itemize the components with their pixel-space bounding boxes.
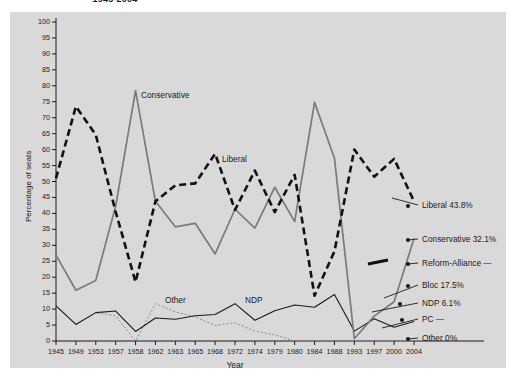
chart-annotation-ndp: NDP — [245, 295, 263, 305]
legend-marker-dot — [406, 238, 410, 242]
y-axis-tick-label: 80 — [28, 81, 50, 90]
series-line-other — [56, 304, 414, 341]
series-line-conservative — [56, 91, 414, 339]
legend-label-0: Liberal 43.8% — [422, 200, 473, 210]
legend-marker-dot — [406, 204, 410, 208]
y-axis-tick-label: 15 — [28, 288, 50, 297]
legend-leader-line — [384, 285, 418, 298]
legend-marker-dot — [400, 318, 404, 322]
x-axis-title: Year — [205, 360, 265, 370]
legend-marker-dot — [398, 302, 402, 306]
legend-marker-dot — [406, 284, 410, 288]
y-axis-tick-label: 35 — [28, 224, 50, 233]
y-axis-title: Percentage of seats — [24, 150, 33, 221]
y-axis-tick-label: 95 — [28, 33, 50, 42]
y-axis-tick-label: 90 — [28, 49, 50, 58]
y-axis-tick-label: 70 — [28, 113, 50, 122]
y-axis-tick-label: 0 — [28, 336, 50, 345]
x-axis-tick-label: 2004 — [401, 347, 427, 356]
legend-leader-line — [392, 198, 418, 205]
y-axis-tick-label: 100 — [28, 17, 50, 26]
y-axis-tick-label: 5 — [28, 320, 50, 329]
y-axis-tick-label: 85 — [28, 65, 50, 74]
legend-label-6: Other 0% — [422, 333, 457, 343]
legend-label-3: Bloc 17.5% — [422, 280, 464, 290]
legend-leader-line — [372, 303, 418, 312]
chart-plot-panel: 1009590858075706560555045403530252015105… — [10, 12, 506, 368]
legend-label-1: Conservative 32.1% — [422, 234, 496, 244]
y-axis-tick-label: 65 — [28, 129, 50, 138]
chart-annotation-liberal: Liberal — [222, 154, 247, 164]
legend-sample-reform-alliance — [368, 260, 388, 264]
legend-marker-dot — [406, 337, 410, 341]
legend-label-4: NDP 6.1% — [422, 298, 461, 308]
y-axis-tick-label: 10 — [28, 304, 50, 313]
y-axis-tick-label: 25 — [28, 256, 50, 265]
legend-label-5: PC — — [422, 314, 444, 324]
y-axis-tick-label: 75 — [28, 97, 50, 106]
series-line-ndp — [56, 294, 414, 331]
page-title: 1945-2004 — [0, 0, 230, 4]
chart-annotation-conservative: Conservative — [141, 90, 189, 100]
series-line-liberal — [56, 107, 414, 296]
legend-label-2: Reform-Alliance — — [422, 258, 492, 268]
y-axis-tick-label: 20 — [28, 272, 50, 281]
chart-annotation-other: Other — [165, 295, 186, 305]
y-axis-tick-label: 30 — [28, 240, 50, 249]
legend-marker-dot — [406, 262, 410, 266]
